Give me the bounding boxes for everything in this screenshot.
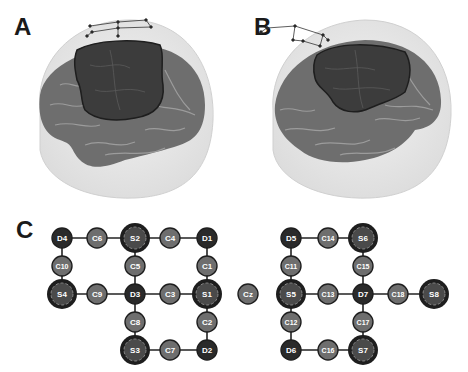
node-label: C8	[130, 318, 141, 327]
node-d3: D3	[125, 284, 145, 304]
node-d4: D4	[52, 228, 72, 248]
node-label: S1	[202, 290, 212, 299]
node-c13: C13	[318, 284, 338, 304]
node-c10: C10	[52, 256, 72, 276]
node-d2: D2	[197, 340, 217, 360]
node-label: S6	[358, 234, 368, 243]
node-label: S2	[130, 234, 140, 243]
node-c4: C4	[160, 228, 180, 248]
node-label: D7	[358, 290, 369, 299]
node-s1: S1	[192, 279, 222, 309]
node-label: C18	[392, 291, 405, 298]
node-s6: S6	[348, 223, 378, 253]
node-label: S8	[429, 290, 439, 299]
node-c2: C2	[197, 312, 217, 332]
node-c6: C6	[87, 228, 107, 248]
node-label: S7	[358, 346, 368, 355]
node-label: C13	[322, 291, 335, 298]
node-s2: S2	[120, 223, 150, 253]
node-c3: C3	[160, 284, 180, 304]
node-label: C7	[165, 346, 176, 355]
node-label: S5	[286, 290, 296, 299]
node-label: C10	[56, 263, 69, 270]
node-c14: C14	[318, 228, 338, 248]
node-label: C17	[357, 319, 370, 326]
node-label: D2	[202, 346, 213, 355]
node-label: C9	[92, 290, 103, 299]
node-c16: C16	[318, 340, 338, 360]
node-label: C12	[285, 319, 298, 326]
node-label: C3	[165, 290, 176, 299]
node-label: C1	[202, 262, 213, 271]
node-c11: C11	[281, 256, 301, 276]
node-label: C11	[285, 263, 298, 270]
node-d1: D1	[197, 228, 217, 248]
node-label: D1	[202, 234, 213, 243]
node-c15: C15	[353, 256, 373, 276]
node-c8: C8	[125, 312, 145, 332]
node-d5: D5	[281, 228, 301, 248]
node-label: C16	[322, 347, 335, 354]
node-label: D5	[286, 234, 297, 243]
network-nodes: D4C6S2C4D1C10C5C1S4C9D3C3S1C8C2S3C7D2CzD…	[47, 223, 449, 365]
node-label: C6	[92, 234, 103, 243]
node-label: Cz	[243, 290, 253, 299]
node-c17: C17	[353, 312, 373, 332]
node-label: C5	[130, 262, 141, 271]
node-c12: C12	[281, 312, 301, 332]
node-label: S3	[130, 346, 140, 355]
node-label: C15	[357, 263, 370, 270]
node-label: C4	[165, 234, 176, 243]
node-cz: Cz	[238, 284, 258, 304]
node-s7: S7	[348, 335, 378, 365]
node-label: D4	[57, 234, 68, 243]
node-c1: C1	[197, 256, 217, 276]
node-s3: S3	[120, 335, 150, 365]
node-d6: D6	[281, 340, 301, 360]
electrode-network-diagram: D4C6S2C4D1C10C5C1S4C9D3C3S1C8C2S3C7D2CzD…	[0, 0, 468, 372]
node-s8: S8	[419, 279, 449, 309]
node-label: D6	[286, 346, 297, 355]
node-label: C2	[202, 318, 213, 327]
node-c9: C9	[87, 284, 107, 304]
node-s5: S5	[276, 279, 306, 309]
node-d7: D7	[353, 284, 373, 304]
node-c5: C5	[125, 256, 145, 276]
node-s4: S4	[47, 279, 77, 309]
node-c18: C18	[388, 284, 408, 304]
node-label: C14	[322, 235, 335, 242]
node-label: D3	[130, 290, 141, 299]
node-label: S4	[57, 290, 67, 299]
node-c7: C7	[160, 340, 180, 360]
